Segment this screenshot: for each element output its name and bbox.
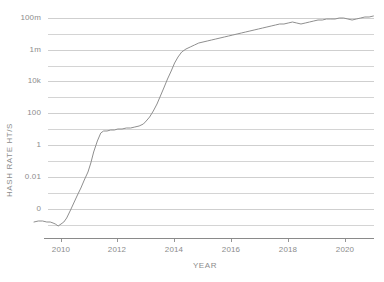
x-tick-label: 2020 [336, 245, 355, 254]
x-tick-label: 2016 [222, 245, 241, 254]
y-tick-label: 0 [36, 204, 41, 213]
y-tick-label: 1m [30, 45, 42, 54]
y-tick-label: 1 [36, 140, 41, 149]
y-tick-label: 100m [20, 13, 41, 22]
y-tick-label: 10k [28, 76, 42, 85]
x-tick-label: 2012 [108, 245, 127, 254]
x-tick-label: 2014 [165, 245, 184, 254]
y-tick-label: 0.01 [25, 172, 42, 181]
chart-background [0, 0, 384, 282]
y-tick-label: 100 [27, 108, 41, 117]
hash-rate-chart: 100m1m10k10010.010 201020122014201620182… [0, 0, 384, 282]
x-tick-label: 2018 [279, 245, 298, 254]
x-tick-label: 2010 [52, 245, 71, 254]
chart-canvas: 100m1m10k10010.010 201020122014201620182… [0, 0, 384, 282]
x-axis-title: YEAR [193, 261, 217, 270]
y-axis-title: HASH RATE HT/S [5, 123, 14, 197]
